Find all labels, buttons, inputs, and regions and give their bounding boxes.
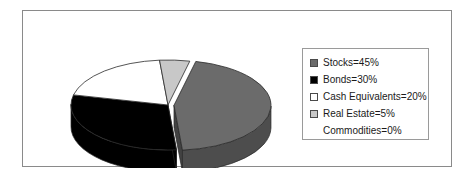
- screenshot-root: Stocks=45% Bonds=30% Cash Equivalents=20…: [0, 0, 467, 183]
- pie-chart-area: [23, 11, 303, 168]
- legend-label-stocks: Stocks=45%: [323, 57, 379, 68]
- legend-item-commodities[interactable]: Commodities=0%: [303, 122, 428, 139]
- legend-item-cash-equivalents[interactable]: Cash Equivalents=20%: [303, 88, 428, 105]
- legend-item-stocks[interactable]: Stocks=45%: [303, 54, 428, 71]
- chart-legend: Stocks=45% Bonds=30% Cash Equivalents=20…: [302, 48, 429, 140]
- legend-label-cash-equivalents: Cash Equivalents=20%: [323, 91, 427, 102]
- legend-label-commodities: Commodities=0%: [323, 125, 402, 136]
- legend-label-bonds: Bonds=30%: [323, 74, 377, 85]
- legend-item-bonds[interactable]: Bonds=30%: [303, 71, 428, 88]
- legend-swatch-stocks: [310, 59, 318, 67]
- legend-swatch-commodities: [310, 127, 318, 135]
- chart-frame: Stocks=45% Bonds=30% Cash Equivalents=20…: [22, 10, 452, 167]
- legend-label-real-estate: Real Estate=5%: [323, 108, 395, 119]
- pie-top-faces: [71, 60, 271, 150]
- legend-item-real-estate[interactable]: Real Estate=5%: [303, 105, 428, 122]
- legend-swatch-cash-equivalents: [310, 93, 318, 101]
- legend-swatch-real-estate: [310, 110, 318, 118]
- pie-chart-svg: [23, 11, 303, 168]
- legend-swatch-bonds: [310, 76, 318, 84]
